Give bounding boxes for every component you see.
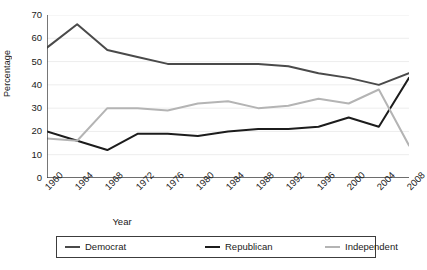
y-tick-label: 30: [20, 103, 42, 113]
plot-area: [47, 15, 409, 178]
series-line-democrat: [47, 24, 409, 85]
y-axis-tick-labels: 010203040506070: [14, 15, 42, 178]
plot-svg: [47, 15, 409, 178]
y-tick-label: 50: [20, 57, 42, 67]
y-tick-label: 20: [20, 126, 42, 136]
gridlines: [47, 15, 409, 155]
y-tick-label: 70: [20, 10, 42, 20]
y-tick-label: 60: [20, 33, 42, 43]
legend: DemocratRepublicanIndependent: [56, 236, 376, 258]
legend-item-democrat: Democrat: [65, 237, 126, 257]
legend-item-independent: Independent: [325, 237, 398, 257]
x-axis-title: Year: [47, 216, 197, 227]
legend-item-republican: Republican: [205, 237, 273, 257]
axis-tick-marks: [47, 15, 409, 178]
legend-swatch-icon: [325, 246, 340, 248]
legend-label: Independent: [345, 242, 398, 252]
axis-lines: [47, 15, 409, 178]
series-line-independent: [47, 90, 409, 146]
y-tick-label: 10: [20, 150, 42, 160]
y-tick-label: 40: [20, 80, 42, 90]
legend-swatch-icon: [205, 246, 220, 248]
legend-swatch-icon: [65, 246, 80, 248]
legend-label: Republican: [225, 242, 273, 252]
legend-label: Democrat: [85, 242, 126, 252]
y-tick-label: 0: [20, 173, 42, 183]
